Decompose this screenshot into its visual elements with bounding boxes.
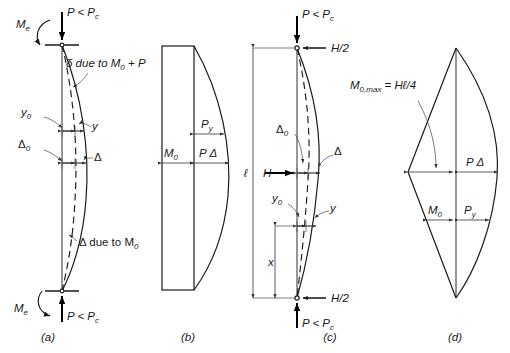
panel-a-delta-due-M0-label: Δ due to M0 bbox=[79, 236, 139, 251]
panel-a-top-end-moment-label: Me bbox=[16, 18, 31, 33]
panel-c-Delta-leader bbox=[318, 155, 333, 167]
panel-c-y0-label: y0 bbox=[271, 192, 283, 207]
panel-a-y-label: y bbox=[91, 120, 99, 132]
panel-c-length-label: ℓ bbox=[243, 167, 248, 179]
panel-a: P < Pc Me P < Pc Me δ due to M0 + P y0 y… bbox=[14, 6, 146, 343]
panel-a-caption: (a) bbox=[41, 331, 55, 343]
panel-a-Delta0-leader bbox=[44, 150, 62, 161]
panel-c-caption: (c) bbox=[323, 331, 337, 343]
panel-c-bottom-pin bbox=[295, 296, 299, 300]
panel-c-moment-max-label: M0,max = Hℓ/4 bbox=[350, 79, 416, 94]
panel-c-x-label: x bbox=[267, 256, 275, 268]
panel-d-Py-label: Py bbox=[464, 204, 477, 219]
panel-c-top-load-label: P < Pc bbox=[302, 8, 334, 23]
panel-a-top-load-label: P < Pc bbox=[67, 6, 99, 21]
panel-a-Delta0-label: Δ0 bbox=[18, 138, 31, 153]
panel-a-Delta-label: Δ bbox=[94, 151, 102, 163]
panel-a-y-leader bbox=[79, 123, 91, 127]
panel-d-PDelta-label: P Δ bbox=[466, 156, 484, 168]
panel-c: ℓ P < Pc H/2 P < Pc H/2 H M0,max = Hℓ/4 … bbox=[243, 8, 416, 343]
panel-c-Delta-label: Δ bbox=[334, 145, 342, 157]
panel-c-transverse-load-label: H bbox=[263, 167, 272, 179]
panel-a-bottom-end-moment-label: Me bbox=[14, 302, 29, 317]
panel-a-top-node bbox=[60, 43, 64, 47]
panel-b-PDelta-curve bbox=[194, 46, 229, 290]
panel-a-deflected-curve-solid bbox=[62, 45, 87, 291]
panel-d: P Δ M0 Py (d) bbox=[408, 48, 498, 343]
panel-b: Py M0 P Δ (b) bbox=[162, 46, 229, 343]
panel-c-bottom-load-label: P < Pc bbox=[302, 317, 334, 332]
panel-c-top-pin bbox=[295, 46, 299, 50]
panel-b-M0-label: M0 bbox=[164, 147, 179, 162]
panel-b-Py-label: Py bbox=[201, 118, 214, 133]
panel-c-y-label: y bbox=[329, 202, 337, 214]
panel-c-Delta0-label: Δ0 bbox=[276, 123, 289, 138]
panel-c-Delta0-leader bbox=[295, 134, 303, 163]
panel-d-M0-label: M0 bbox=[428, 204, 443, 219]
figure-root: P < Pc Me P < Pc Me δ due to M0 + P y0 y… bbox=[0, 0, 510, 353]
panel-d-PDelta-curve bbox=[456, 48, 497, 298]
panel-b-caption: (b) bbox=[181, 331, 195, 343]
panel-a-y0-label: y0 bbox=[20, 106, 32, 121]
panel-a-top-end-moment-arc bbox=[37, 20, 50, 45]
panel-c-bottom-reaction-label: H/2 bbox=[331, 292, 350, 304]
panel-a-Delta-leader bbox=[84, 158, 93, 160]
panel-c-top-reaction-label: H/2 bbox=[331, 42, 350, 54]
panel-c-y-leader bbox=[315, 211, 329, 218]
beam-column-figure: P < Pc Me P < Pc Me δ due to M0 + P y0 y… bbox=[0, 0, 510, 353]
panel-a-delta-due-label: δ due to M0 + P bbox=[66, 57, 146, 72]
panel-b-M0-rectangle bbox=[162, 46, 194, 290]
panel-a-bottom-load-label: P < Pc bbox=[67, 310, 99, 325]
panel-a-y0-leader bbox=[44, 117, 62, 128]
panel-a-bottom-end-moment-arc bbox=[38, 291, 50, 316]
panel-b-PDelta-label: P Δ bbox=[199, 147, 217, 159]
panel-a-delta-due-M0-leader bbox=[69, 235, 77, 241]
panel-a-bottom-node bbox=[60, 289, 64, 293]
panel-d-caption: (d) bbox=[448, 331, 462, 343]
panel-d-moment-max-leader bbox=[418, 101, 436, 168]
